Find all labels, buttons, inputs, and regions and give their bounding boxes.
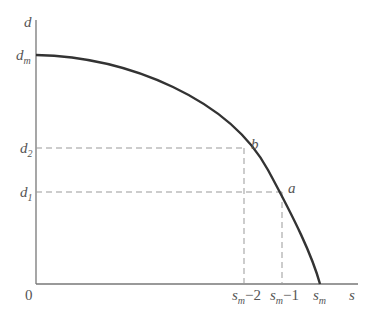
tick-d1: d1: [20, 185, 33, 203]
dashed-guides: [36, 148, 282, 284]
tick-sm: sm: [313, 288, 326, 306]
y-axis-label: d: [24, 15, 32, 30]
point-a-label: a: [288, 181, 296, 196]
tick-sm-1: sm−1: [270, 288, 299, 306]
origin-label: 0: [25, 288, 33, 303]
x-axis-label: s: [349, 288, 355, 303]
point-b-label: b: [251, 137, 259, 152]
tick-d2: d2: [20, 141, 33, 159]
chart-canvas: [0, 0, 379, 316]
tick-dm: dm: [16, 48, 31, 66]
frontier-curve: [36, 55, 320, 284]
tick-sm-2: sm−2: [232, 288, 261, 306]
